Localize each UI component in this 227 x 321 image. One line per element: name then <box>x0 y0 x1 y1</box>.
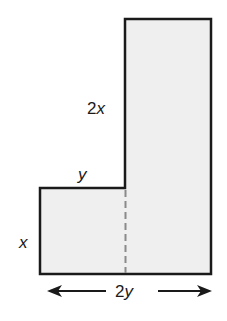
label-short-height: x <box>18 233 28 252</box>
label-tall-height: 2x <box>87 99 105 118</box>
label-total-width: 2y <box>115 282 134 301</box>
l-shape-diagram: 2x y x 2y <box>0 0 227 321</box>
label-step-width: y <box>77 165 88 184</box>
